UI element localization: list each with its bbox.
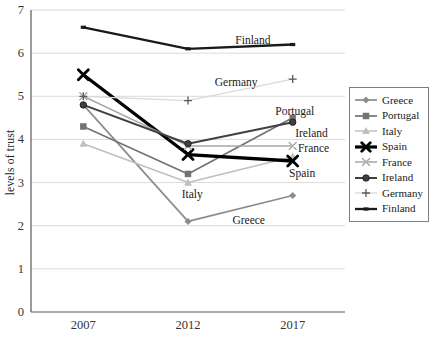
x-marker-icon: [78, 70, 88, 80]
legend-label: Greece: [382, 95, 413, 106]
y-tick-label: 4: [18, 132, 25, 146]
x-tick-label: 2017: [280, 318, 305, 332]
circle-marker-icon: [185, 140, 192, 147]
legend-item-italy: Italy: [354, 124, 426, 138]
y-tick-label: 7: [18, 3, 24, 17]
legend-label: France: [382, 157, 412, 168]
series-label-germany: Germany: [215, 76, 258, 89]
y-tick-label: 3: [18, 176, 24, 190]
legend-label: Spain: [382, 141, 407, 152]
legend-item-greece: Greece: [354, 93, 426, 107]
y-axis-title: levels of trust: [4, 103, 19, 223]
series-label-ireland: Ireland: [295, 127, 328, 139]
series-label-greece: Greece: [232, 214, 265, 226]
square-marker-icon: [80, 123, 87, 130]
legend-label: Ireland: [382, 172, 413, 183]
series-germany: [79, 75, 296, 105]
legend-swatch-spain: [354, 141, 378, 153]
legend-item-finland: Finland: [354, 202, 426, 216]
diamond-marker-icon: [363, 97, 370, 104]
series-label-portugal: Portugal: [275, 105, 314, 118]
x-tick-label: 2007: [71, 318, 96, 332]
legend-item-germany: Germany: [354, 186, 426, 200]
legend-item-france: France: [354, 155, 426, 169]
series-line: [83, 105, 292, 221]
diamond-marker-icon: [289, 192, 296, 199]
legend-swatch-greece: [354, 94, 378, 106]
dash-marker-icon: [81, 26, 86, 29]
y-tick-label: 6: [18, 46, 24, 60]
legend-label: Germany: [382, 188, 423, 199]
trust-line-chart-figure: 01234567200720122017FinlandGermanyPortug…: [0, 0, 430, 337]
circle-marker-icon: [363, 175, 370, 182]
y-tick-label: 1: [18, 262, 24, 276]
y-tick-label: 0: [18, 305, 24, 319]
legend-item-portugal: Portugal: [354, 109, 426, 123]
legend-swatch-portugal: [354, 110, 378, 122]
legend-label: Finland: [382, 203, 416, 214]
series-label-finland: Finland: [235, 34, 270, 46]
plus-marker-icon: [362, 189, 370, 197]
square-marker-icon: [363, 112, 370, 119]
plus-marker-icon: [289, 75, 297, 83]
y-tick-label: 2: [18, 219, 24, 233]
plus-marker-icon: [184, 97, 192, 105]
series-label-france: France: [298, 142, 329, 154]
legend-swatch-ireland: [354, 172, 378, 184]
dash-marker-icon: [363, 207, 368, 210]
chart-legend: GreecePortugalItalySpainFranceIrelandGer…: [349, 87, 429, 222]
circle-marker-icon: [289, 119, 296, 126]
series-label-italy: Italy: [182, 188, 203, 201]
legend-swatch-france: [354, 156, 378, 168]
legend-swatch-germany: [354, 187, 378, 199]
series-label-spain: Spain: [289, 167, 315, 180]
dash-marker-icon: [290, 43, 295, 46]
legend-swatch-finland: [354, 203, 378, 215]
legend-item-spain: Spain: [354, 140, 426, 154]
x-tick-label: 2012: [176, 318, 201, 332]
legend-label: Portugal: [382, 110, 419, 121]
square-marker-icon: [185, 171, 192, 178]
legend-label: Italy: [382, 126, 402, 137]
circle-marker-icon: [80, 102, 87, 109]
y-tick-label: 5: [18, 89, 24, 103]
triangle-marker-icon: [79, 140, 87, 147]
dash-marker-icon: [185, 47, 190, 50]
legend-swatch-italy: [354, 125, 378, 137]
series-line: [83, 75, 292, 161]
legend-item-ireland: Ireland: [354, 171, 426, 185]
